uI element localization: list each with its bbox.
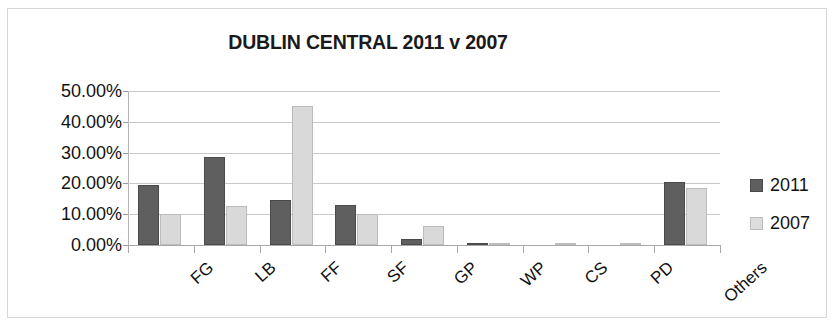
bar-group (194, 91, 260, 245)
y-axis-tick-mark (123, 91, 128, 92)
bar-fg-2007[interactable] (160, 214, 181, 245)
y-axis-labels: 50.00%40.00%30.00%20.00%10.00%0.00% (8, 9, 122, 334)
x-axis-label-gp: GP (450, 258, 482, 289)
legend-item-2007: 2007 (750, 213, 835, 233)
x-axis-label-wp: WP (517, 258, 551, 291)
x-axis-tick-mark (128, 246, 129, 253)
x-axis-tick-mark (325, 246, 326, 253)
chart-legend: 2011 2007 (750, 175, 835, 251)
x-axis-tick-mark (391, 246, 392, 253)
y-axis-tick-label: 0.00% (14, 236, 122, 254)
plot-area (128, 91, 720, 245)
x-axis-label-lb: LB (252, 258, 281, 287)
legend-swatch-2007 (750, 217, 763, 230)
legend-label-2011: 2011 (770, 175, 809, 196)
bar-others-2011[interactable] (664, 182, 685, 245)
bar-group (654, 91, 720, 245)
y-axis-tick-label: 50.00% (14, 82, 122, 100)
y-axis-tick-label: 30.00% (14, 144, 122, 162)
x-axis-tick-mark (523, 246, 524, 253)
y-axis-tick-mark (123, 214, 128, 215)
x-axis-label-pd: PD (647, 258, 678, 289)
x-axis-tick-mark (260, 246, 261, 253)
x-axis-tick-mark (720, 246, 721, 253)
bar-ff-2007[interactable] (292, 106, 313, 245)
legend-item-2011: 2011 (750, 175, 835, 195)
x-axis-tick-mark (194, 246, 195, 253)
bar-group (588, 91, 654, 245)
legend-swatch-2011 (750, 179, 763, 192)
bar-gp-2007[interactable] (423, 226, 444, 245)
y-axis-tick-mark (123, 122, 128, 123)
x-axis-label-ff: FF (318, 258, 347, 287)
bar-lb-2007[interactable] (226, 206, 247, 245)
bar-group (325, 91, 391, 245)
y-axis-tick-mark (123, 183, 128, 184)
y-axis-tick-label: 10.00% (14, 205, 122, 223)
bar-group (523, 91, 589, 245)
bar-group (391, 91, 457, 245)
x-axis-label-fg: FG (187, 258, 218, 289)
bar-ff-2011[interactable] (270, 200, 291, 245)
bar-group (457, 91, 523, 245)
bar-lb-2011[interactable] (204, 157, 225, 245)
x-axis-tick-mark (654, 246, 655, 253)
y-axis-tick-label: 40.00% (14, 113, 122, 131)
x-axis-tick-mark (588, 246, 589, 253)
bar-sf-2011[interactable] (335, 205, 356, 245)
bar-group (128, 91, 194, 245)
bar-others-2007[interactable] (686, 188, 707, 245)
chart-container: DUBLIN CENTRAL 2011 v 2007 50.00%40.00%3… (7, 8, 827, 318)
x-axis-label-sf: SF (384, 258, 414, 287)
y-axis-tick-mark (123, 153, 128, 154)
x-axis-label-others: Others (720, 258, 771, 307)
x-axis-label-cs: CS (581, 258, 612, 289)
y-axis-tick-label: 20.00% (14, 174, 122, 192)
bar-group (260, 91, 326, 245)
legend-label-2007: 2007 (770, 213, 810, 234)
x-axis-tick-mark (457, 246, 458, 253)
bar-sf-2007[interactable] (357, 214, 378, 245)
bar-fg-2011[interactable] (138, 185, 159, 245)
x-axis-line (128, 245, 721, 246)
